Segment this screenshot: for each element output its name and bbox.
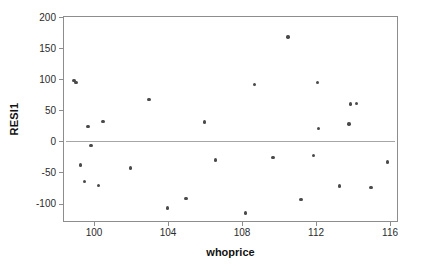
x-axis-tick: 100	[94, 221, 95, 226]
y-axis-tick-label: 100	[39, 75, 56, 85]
plot-area	[64, 17, 397, 221]
data-point	[86, 125, 89, 128]
y-axis-tick-label: 200	[39, 13, 56, 23]
x-axis-tick-label: 104	[160, 228, 177, 238]
x-axis-tick-label: 112	[308, 228, 324, 238]
data-point	[89, 144, 92, 147]
y-axis-tick: 100	[59, 79, 64, 80]
y-axis-title: RESI1	[8, 16, 24, 222]
data-point	[355, 102, 358, 105]
x-axis-tick-label: 108	[234, 228, 251, 238]
data-point	[166, 206, 169, 209]
data-point	[369, 186, 372, 189]
data-point	[338, 184, 341, 187]
y-axis-tick-label: -100	[36, 199, 56, 209]
y-axis-tick-label: 50	[45, 106, 56, 116]
y-axis-tick: 0	[59, 141, 64, 142]
data-point	[286, 35, 289, 38]
y-axis-tick-label: -50	[42, 168, 56, 178]
y-axis-tick: -50	[59, 172, 64, 173]
x-axis-tick-label: 116	[382, 228, 398, 238]
data-point	[316, 81, 319, 84]
data-point	[147, 98, 150, 101]
y-axis-tick: 50	[59, 110, 64, 111]
data-point	[347, 122, 350, 125]
x-axis-title: whoprice	[63, 246, 398, 258]
data-point	[203, 120, 206, 123]
data-point	[317, 127, 320, 130]
data-point	[299, 198, 302, 201]
data-point	[129, 166, 132, 169]
data-point	[312, 154, 315, 157]
data-point	[271, 156, 274, 159]
x-axis-tick: 116	[390, 221, 391, 226]
y-axis-tick: 200	[59, 17, 64, 18]
x-axis-tick-label: 100	[86, 228, 103, 238]
data-point	[101, 120, 104, 123]
data-point	[349, 102, 352, 105]
data-point	[253, 83, 256, 86]
x-axis-tick: 112	[316, 221, 317, 226]
data-point	[97, 184, 100, 187]
y-axis-tick-label: 150	[39, 44, 56, 54]
y-axis-tick: -100	[59, 204, 64, 205]
data-point	[74, 81, 77, 84]
data-point	[184, 197, 187, 200]
y-axis-tick-label: 0	[50, 137, 56, 147]
data-point	[79, 163, 82, 166]
zero-reference-line	[66, 141, 395, 142]
data-point	[244, 211, 247, 214]
data-point	[386, 160, 389, 163]
x-axis-tick: 104	[168, 221, 169, 226]
scatter-plot-figure: 200150100500-50-100100104108112116 whopr…	[0, 0, 425, 270]
x-axis-tick: 108	[242, 221, 243, 226]
plot-frame: 200150100500-50-100100104108112116	[63, 16, 398, 222]
data-point	[214, 158, 217, 161]
data-point	[83, 180, 86, 183]
y-axis-tick: 150	[59, 48, 64, 49]
